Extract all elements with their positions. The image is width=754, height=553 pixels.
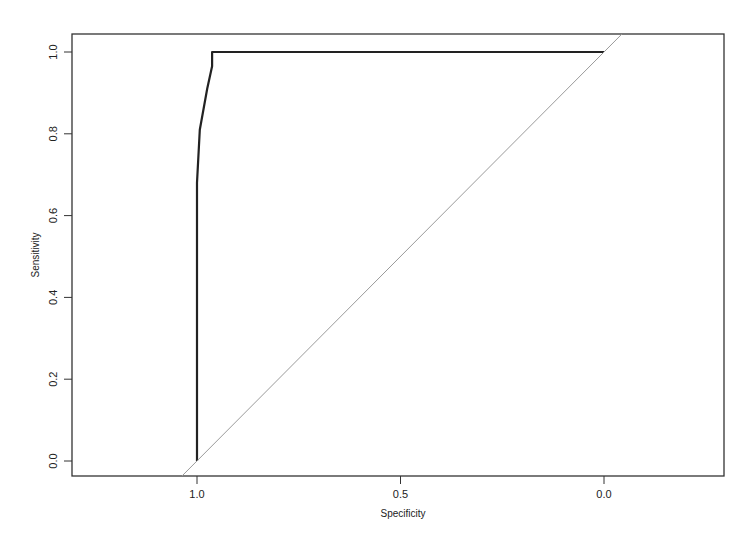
- roc-chart: 0.00.20.40.60.81.0 1.00.50.0 Specificity…: [0, 0, 754, 553]
- reference-diagonal: [177, 32, 625, 482]
- y-tick-label: 1.0: [47, 44, 59, 59]
- y-tick-label: 0.6: [47, 208, 59, 223]
- y-tick-label: 0.8: [47, 126, 59, 141]
- x-tick-label: 1.0: [189, 488, 204, 500]
- series-group: [177, 32, 625, 482]
- y-axis-label: Sensitivity: [30, 232, 41, 277]
- y-tick-label: 0.2: [47, 372, 59, 387]
- x-tick-label: 0.0: [596, 488, 611, 500]
- x-axis: 1.00.50.0: [189, 476, 611, 500]
- y-tick-label: 0.4: [47, 290, 59, 305]
- x-tick-label: 0.5: [393, 488, 408, 500]
- plot-frame: [72, 34, 724, 476]
- y-tick-label: 0.0: [47, 453, 59, 468]
- x-axis-label: Specificity: [380, 508, 425, 519]
- y-axis: 0.00.20.40.60.81.0: [47, 44, 72, 468]
